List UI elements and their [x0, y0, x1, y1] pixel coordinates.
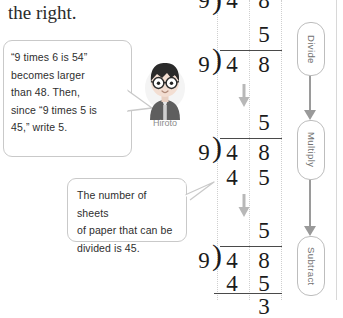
column-guide — [281, 0, 282, 300]
step-pill-divide[interactable]: Divide — [297, 22, 325, 76]
division-bracket: ) — [212, 240, 222, 270]
remainder-digit: 3 — [254, 294, 274, 318]
long-division-work: 9 ) 4 8 5 9 ) 4 8 5 9 ) 4 8 4 — [196, 0, 296, 300]
division-bracket: ) — [212, 0, 222, 14]
divisor-digit: 9 — [194, 248, 214, 274]
bubble-line: 45,” write 5. — [11, 119, 123, 137]
step-pill-label: Subtract — [306, 247, 317, 286]
avatar-name-label: Hiroto — [141, 118, 189, 128]
divisor-digit: 9 — [194, 140, 214, 166]
hiroto-speech-bubble: “9 times 6 is 54” becomes larger than 48… — [3, 40, 132, 157]
quotient-digit: 5 — [254, 218, 274, 244]
dividend-digit: 4 — [222, 0, 242, 14]
dividend-digit: 4 — [222, 52, 242, 78]
bubble-line: than 48. Then, — [11, 84, 123, 102]
bubble-line: The number of sheets — [77, 187, 180, 222]
division-bracket: ) — [212, 132, 222, 162]
divisor-digit: 9 — [194, 52, 214, 78]
page-heading: the right. — [8, 2, 77, 24]
dividend-digit: 8 — [254, 0, 274, 14]
page-edge-rule — [336, 0, 337, 300]
step-connector-line — [309, 178, 311, 230]
bubble-line: of paper that can be — [77, 222, 180, 240]
step-pill-multiply[interactable]: Multiply — [297, 120, 325, 180]
step-arrow-head — [304, 226, 316, 236]
dividend-digit: 8 — [254, 52, 274, 78]
bubble-line: divided is 45. — [77, 240, 180, 258]
bubble-line: “9 times 6 is 54” — [11, 49, 123, 67]
step-flow-column: Divide Multiply Subtract — [297, 0, 327, 300]
sheets-speech-bubble: The number of sheets of paper that can b… — [67, 178, 187, 242]
product-digit: 5 — [254, 165, 274, 191]
step-connector-line — [309, 72, 311, 114]
bubble-line: since “9 times 5 is — [11, 102, 123, 120]
dividend-digit: 4 — [222, 140, 242, 166]
step-arrow-head — [304, 110, 316, 120]
flow-arrow-down — [238, 84, 250, 108]
step-pill-label: Multiply — [306, 132, 317, 167]
quotient-digit: 5 — [254, 110, 274, 136]
step-pill-subtract[interactable]: Subtract — [297, 236, 325, 296]
product-digit: 4 — [222, 165, 242, 191]
column-guide — [249, 0, 250, 300]
bubble-line: becomes larger — [11, 67, 123, 85]
divisor-digit: 9 — [194, 0, 214, 14]
hiroto-avatar — [141, 58, 189, 122]
flow-arrow-down — [238, 194, 250, 218]
quotient-digit: 5 — [254, 22, 274, 48]
division-bracket: ) — [212, 44, 222, 74]
dividend-digit: 8 — [254, 140, 274, 166]
step-pill-label: Divide — [306, 35, 317, 64]
